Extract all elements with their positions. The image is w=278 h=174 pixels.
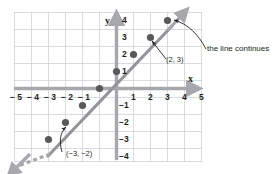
data-point [62, 119, 69, 126]
y-axis-label: y [105, 16, 110, 26]
y-tick-label-neg1: −1 [119, 101, 129, 110]
coordinate-graph-figure: − 5 − 4 − 3 − 2 − 1 1 2 3 4 5 4 3 2 1 −1… [0, 0, 278, 174]
y-tick-label-neg3: −3 [119, 135, 129, 144]
y-tick-label-4: 4 [122, 16, 127, 25]
y-tick-label-1: 1 [122, 67, 127, 76]
annotation-point-neg3-neg2: (−3, −2) [66, 150, 92, 158]
annotation-line-continues: the line continues [207, 45, 269, 53]
plot-canvas [0, 0, 278, 174]
y-tick-label-3: 3 [122, 33, 127, 42]
x-tick-label-5: 5 [199, 93, 204, 102]
x-tick-label-neg4: − 4 [27, 93, 39, 102]
annotation-point-2-3: (2, 3) [166, 56, 184, 64]
x-tick-label-neg2: − 2 [61, 93, 73, 102]
data-point [79, 102, 86, 109]
data-point [113, 68, 120, 75]
x-tick-label-2: 2 [148, 93, 153, 102]
data-point [130, 51, 137, 58]
data-point [96, 85, 103, 92]
data-point [45, 136, 52, 143]
y-tick-label-2: 2 [122, 50, 127, 59]
data-point [147, 34, 154, 41]
plotted-line-solid [48, 26, 172, 156]
x-axis-label: x [188, 74, 193, 84]
x-tick-label-1: 1 [131, 93, 136, 102]
x-tick-label-4: 4 [182, 93, 187, 102]
y-tick-label-neg4: −4 [119, 152, 129, 161]
plotted-points [45, 17, 171, 143]
x-tick-label-3: 3 [165, 93, 170, 102]
x-tick-label-neg5: − 5 [10, 93, 22, 102]
x-tick-label-neg3: − 3 [44, 93, 56, 102]
leader-point-2-3 [152, 41, 166, 59]
y-tick-label-neg2: −2 [119, 118, 129, 127]
data-point [164, 17, 171, 24]
x-tick-label-neg1: − 1 [78, 93, 90, 102]
